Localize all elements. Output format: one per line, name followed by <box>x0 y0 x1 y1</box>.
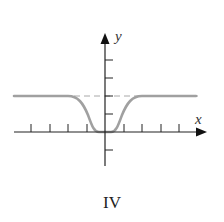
x-axis-label: x <box>194 111 202 127</box>
x-axis-arrow-icon <box>196 128 207 137</box>
figure-caption: IV <box>0 193 224 213</box>
y-axis-arrow-icon <box>101 33 110 44</box>
graph: y x <box>0 0 224 222</box>
y-ticks <box>105 60 113 150</box>
y-axis-label: y <box>113 28 122 44</box>
